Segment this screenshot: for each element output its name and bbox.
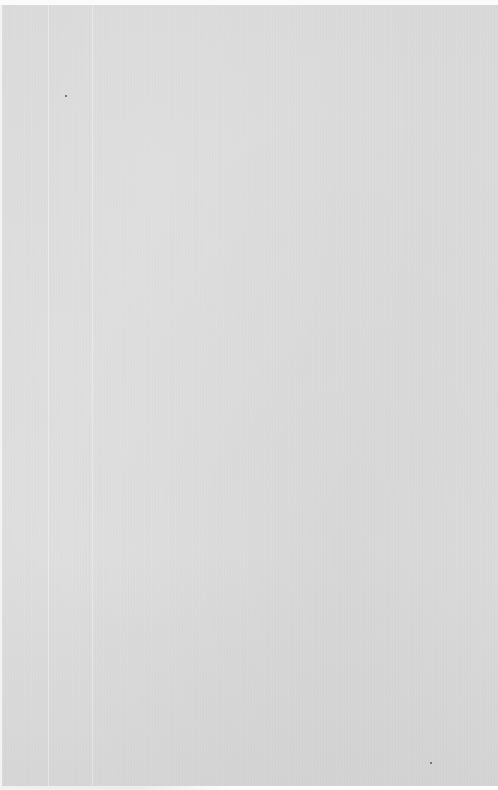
scan-line: [92, 5, 93, 786]
page-left-edge: [0, 5, 3, 786]
scan-line: [48, 5, 49, 786]
dust-speck: [65, 95, 67, 97]
scanned-page: [0, 0, 498, 790]
page-bottom-edge: [0, 786, 230, 790]
paper-surface: [2, 5, 498, 786]
dust-speck: [430, 762, 432, 764]
